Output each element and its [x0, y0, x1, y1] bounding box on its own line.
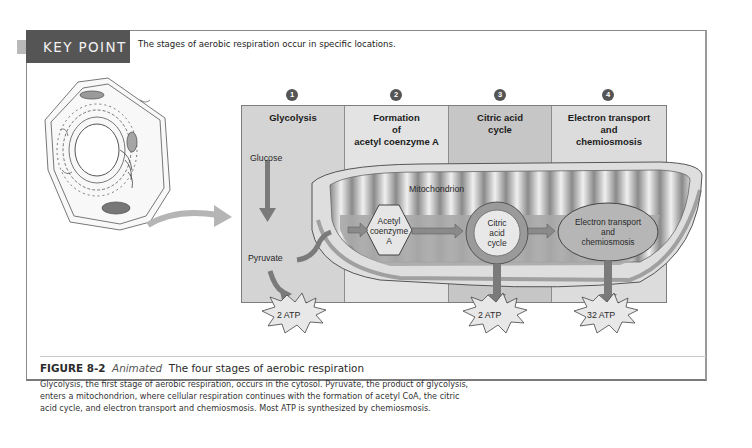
caption-divider [40, 356, 706, 357]
mitochondrion-label: Mitochondrion [409, 184, 464, 194]
atp-label-glycolysis: 2 ATP [277, 310, 300, 320]
acetyl-coa-label: Acetyl coenzyme A [364, 216, 414, 246]
glucose-label: Glucose [250, 153, 282, 163]
figure-caption-title: FIGURE 8-2 Animated The four stages of a… [40, 362, 364, 374]
pyruvate-label: Pyruvate [248, 253, 283, 263]
glucose-to-pyruvate-arrow [259, 208, 276, 222]
atp-label-electron-transport: 32 ATP [587, 310, 615, 320]
citric-acid-cycle-label: Citric acid cycle [477, 218, 517, 248]
electron-transport-label: Electron transport and chemiosmosis [560, 217, 656, 247]
figure-caption-body: Glycolysis, the first stage of aerobic r… [40, 378, 600, 414]
atp-label-citric: 2 ATP [478, 310, 501, 320]
